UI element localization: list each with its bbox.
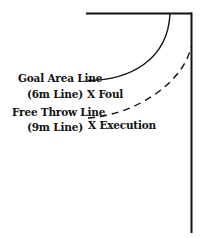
handball-court-diagram: Goal Area Line (6m Line) X Foul Free Thr… (0, 0, 203, 238)
goal-area-sub-label: (6m Line) (27, 89, 83, 100)
free-throw-line-label: Free Throw Line (12, 107, 105, 118)
execution-marker-label: X Execution (88, 120, 156, 131)
goal-area-line-label: Goal Area Line (18, 73, 102, 84)
free-throw-sub-label: (9m Line) (27, 122, 83, 133)
goal-area-arc (88, 14, 170, 81)
foul-marker-label: X Foul (87, 89, 123, 100)
